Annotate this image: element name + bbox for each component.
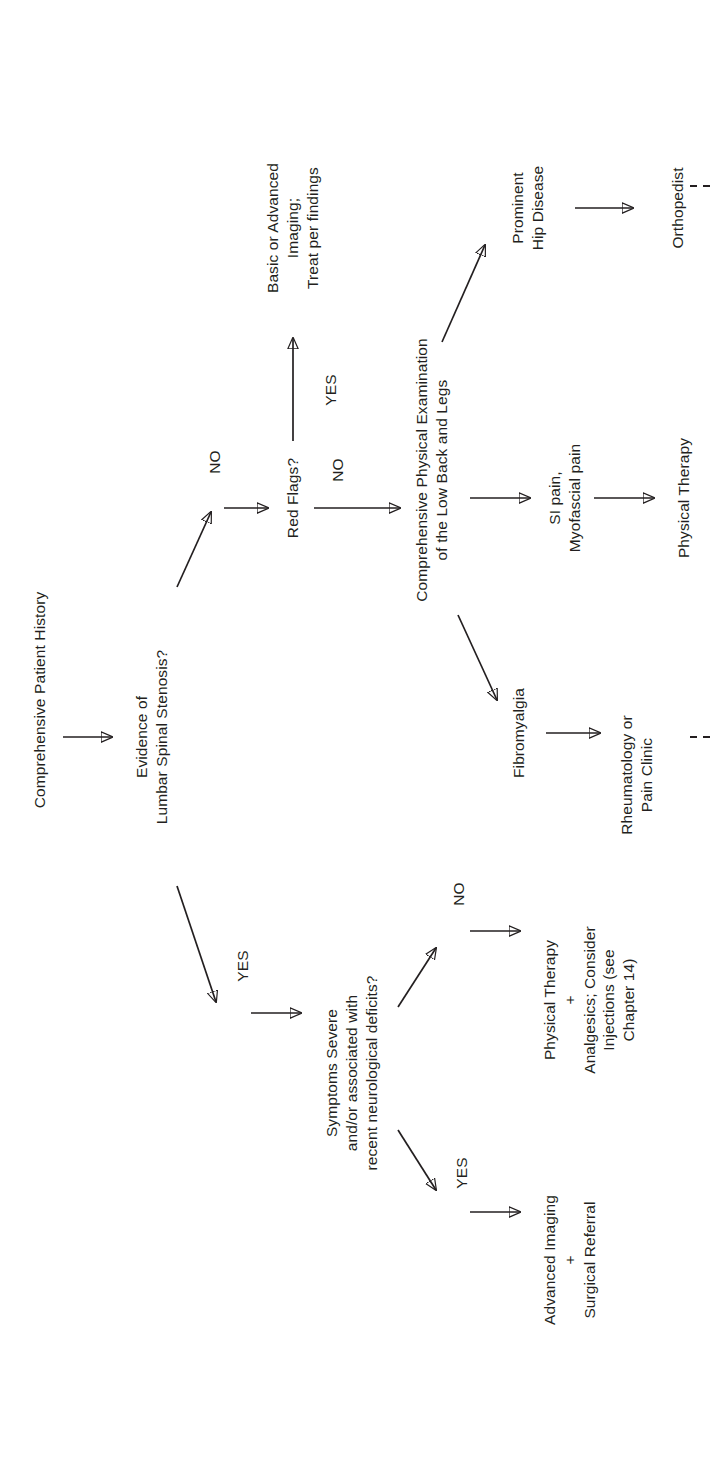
- node-line: Physical Therapy: [540, 926, 560, 1074]
- node-line: Prominent: [508, 166, 528, 251]
- edge-label-lss-no: NO: [206, 450, 224, 474]
- node-comprehensive-patient-history: Comprehensive Patient History: [30, 592, 50, 809]
- node-line: Imaging;: [283, 163, 303, 293]
- edge-label-severe-no: NO: [450, 882, 468, 906]
- node-symptoms-severe: Symptoms Severe and/or associated with r…: [322, 975, 381, 1170]
- edge-label-redflags-yes: YES: [322, 374, 340, 406]
- node-basic-or-advanced-imaging: Basic or Advanced Imaging; Treat per fin…: [263, 163, 322, 293]
- flowchart-edges: [0, 0, 714, 1474]
- node-line: Rheumatology or: [617, 715, 637, 835]
- flowchart-canvas: Comprehensive Patient History Evidence o…: [0, 0, 714, 1474]
- node-prominent-hip-disease: Prominent Hip Disease: [508, 166, 548, 251]
- node-line: Orthopedist: [668, 167, 688, 248]
- node-line: recent neurological deficits?: [362, 975, 382, 1170]
- edge-lss-to-redflags: [177, 512, 211, 587]
- node-line: of the Low Back and Legs: [432, 338, 452, 602]
- node-line: Injections (see: [600, 926, 620, 1074]
- node-line: +: [560, 1195, 580, 1325]
- node-line: Physical Therapy: [674, 438, 694, 558]
- node-line: and/or associated with: [342, 975, 362, 1170]
- edge-severe-to-ptanalg: [398, 948, 436, 1007]
- node-rheumatology-pain-clinic: Rheumatology or Pain Clinic: [617, 715, 657, 835]
- node-line: +: [560, 926, 580, 1074]
- node-line: Analgesics; Consider: [580, 926, 600, 1074]
- edge-label-severe-yes: YES: [453, 1157, 471, 1189]
- node-line: Treat per findings: [303, 163, 323, 293]
- node-physical-therapy: Physical Therapy: [674, 438, 694, 558]
- edge-exam-to-hip: [442, 245, 485, 342]
- node-line: Symptoms Severe: [322, 975, 342, 1170]
- node-si-myofascial-pain: SI pain, Myofascial pain: [545, 444, 585, 552]
- node-line: Surgical Referral: [580, 1195, 600, 1325]
- node-line: Myofascial pain: [565, 444, 585, 552]
- node-orthopedist: Orthopedist: [668, 167, 688, 248]
- node-line: Evidence of: [132, 650, 152, 825]
- node-line: Chapter 14): [620, 926, 640, 1074]
- node-line: Comprehensive Physical Examination: [412, 338, 432, 602]
- node-line: Red Flags?: [283, 458, 303, 538]
- node-line: Pain Clinic: [637, 715, 657, 835]
- node-advanced-imaging-surgical-referral: Advanced Imaging + Surgical Referral: [540, 1195, 599, 1325]
- node-line: Advanced Imaging: [540, 1195, 560, 1325]
- node-physical-therapy-analgesics: Physical Therapy + Analgesics; Consider …: [540, 926, 639, 1074]
- node-line: Lumbar Spinal Stenosis?: [152, 650, 172, 825]
- node-line: Basic or Advanced: [263, 163, 283, 293]
- node-line: Fibromyalgia: [509, 688, 529, 778]
- edge-severe-to-advimg: [398, 1130, 436, 1190]
- edge-exam-to-fibro: [458, 615, 497, 700]
- edge-lss-to-severe: [177, 886, 216, 1002]
- node-line: Hip Disease: [528, 166, 548, 251]
- edge-label-redflags-no: NO: [329, 458, 347, 482]
- node-line: Comprehensive Patient History: [30, 592, 50, 809]
- node-comprehensive-physical-examination: Comprehensive Physical Examination of th…: [412, 338, 452, 602]
- node-red-flags: Red Flags?: [283, 458, 303, 538]
- node-fibromyalgia: Fibromyalgia: [509, 688, 529, 778]
- node-line: SI pain,: [545, 444, 565, 552]
- node-evidence-lumbar-spinal-stenosis: Evidence of Lumbar Spinal Stenosis?: [132, 650, 172, 825]
- edge-label-lss-yes: YES: [234, 950, 252, 982]
